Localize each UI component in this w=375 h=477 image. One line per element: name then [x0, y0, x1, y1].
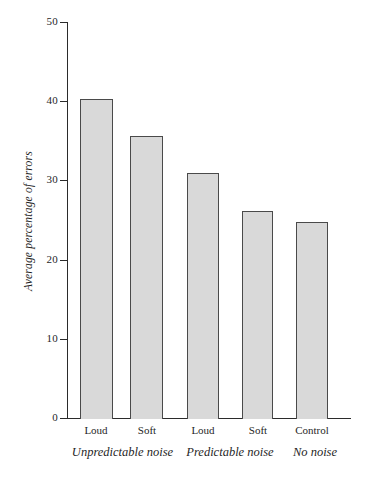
y-tick-50: [60, 22, 68, 23]
y-axis-line: [67, 22, 68, 419]
group-label-no-noise: No noise: [275, 445, 355, 460]
y-tick-40: [60, 101, 68, 102]
y-axis-title: Average percentage of errors: [22, 131, 34, 311]
bar-no-noise-control: [296, 222, 328, 419]
y-tick-20: [60, 260, 68, 261]
bar-unpredictable-loud: [80, 99, 113, 419]
y-tick-label-30: 30: [32, 174, 58, 185]
y-tick-0: [60, 418, 68, 419]
y-tick-label-20: 20: [32, 254, 58, 265]
category-label-no-noise-control: Control: [282, 424, 342, 437]
bar-unpredictable-soft: [130, 136, 163, 419]
y-tick-label-0: 0: [32, 412, 58, 423]
y-tick-label-0-wrap: 0: [22, 412, 58, 423]
bar-chart-figure: 50 40 30 20 10 0 Average percentage of e…: [0, 0, 375, 477]
y-tick-label-40: 40: [32, 95, 58, 106]
y-tick-label-40-wrap: 40: [22, 95, 58, 106]
y-tick-label-50: 50: [32, 16, 58, 27]
category-label-unpredictable-soft: Soft: [117, 424, 177, 437]
y-tick-30: [60, 180, 68, 181]
y-tick-label-10-wrap: 10: [22, 333, 58, 344]
bar-predictable-loud: [187, 173, 219, 419]
y-tick-10: [60, 339, 68, 340]
category-label-predictable-soft: Soft: [228, 424, 288, 437]
y-tick-label-50-wrap: 50: [22, 16, 58, 27]
category-label-predictable-loud: Loud: [173, 424, 233, 437]
y-tick-label-10: 10: [32, 333, 58, 344]
bar-predictable-soft: [242, 211, 273, 419]
